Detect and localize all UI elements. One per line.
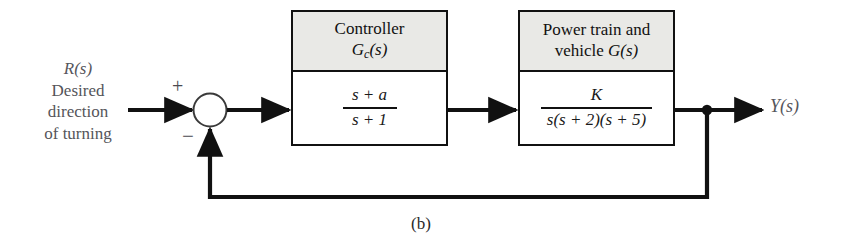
plant-block-title-line-1: Power train and (543, 20, 651, 41)
plant-block-title-word: vehicle (555, 41, 604, 60)
summing-junction-circle (194, 94, 227, 127)
input-description-line-3: of turning (18, 123, 138, 145)
controller-transfer-function-symbol: Gc(s) (352, 40, 388, 62)
controller-block-header: Controller Gc(s) (293, 12, 446, 72)
figure-canvas: R(s) Desired direction of turning + − Co… (0, 0, 842, 245)
plant-symbol-arg: (s) (620, 41, 638, 60)
plant-block-body: K s(s + 2)(s + 5) (520, 72, 673, 144)
plant-block-header: Power train and vehicle G(s) (520, 12, 673, 72)
controller-fraction: s + a s + 1 (343, 86, 397, 129)
controller-block-title: Controller (335, 19, 405, 40)
output-signal-label: Y(s) (770, 96, 799, 117)
controller-symbol-base: G (352, 40, 364, 59)
input-description-line-1: Desired (18, 80, 138, 102)
plant-denominator: s(s + 2)(s + 5) (541, 109, 652, 130)
controller-denominator: s + 1 (346, 109, 393, 130)
controller-symbol-arg: (s) (369, 40, 387, 59)
controller-numerator: s + a (346, 86, 393, 107)
plant-symbol-base: G (608, 41, 620, 60)
summing-junction-plus-sign: + (172, 76, 183, 96)
input-signal-symbol: R(s) (18, 58, 138, 80)
plant-fraction: K s(s + 2)(s + 5) (541, 86, 652, 129)
plant-block: Power train and vehicle G(s) K s(s + 2)(… (518, 10, 675, 146)
controller-block-body: s + a s + 1 (293, 72, 446, 144)
input-description-line-2: direction (18, 101, 138, 123)
summing-junction-minus-sign: − (182, 126, 194, 147)
plant-block-title-line-2: vehicle G(s) (555, 41, 639, 62)
controller-block: Controller Gc(s) s + a s + 1 (291, 10, 448, 146)
input-signal-label: R(s) Desired direction of turning (18, 58, 138, 144)
plant-numerator: K (585, 86, 608, 107)
figure-caption: (b) (0, 214, 842, 234)
